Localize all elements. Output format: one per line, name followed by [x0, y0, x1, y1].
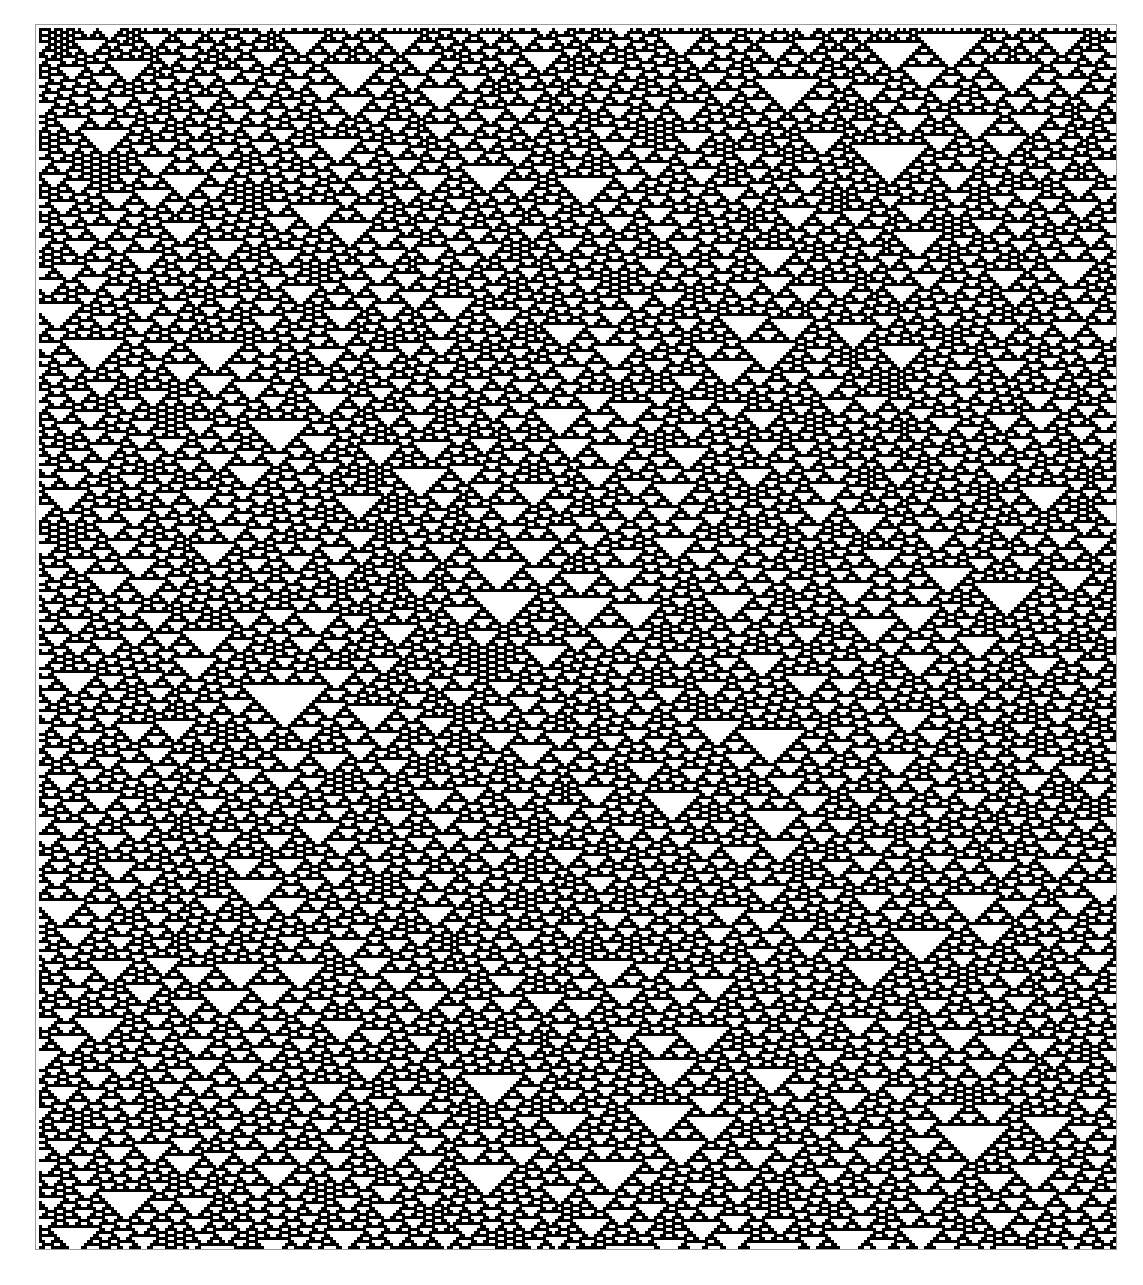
cellular-automaton-pattern: [39, 28, 1116, 1249]
figure-caption: [36, 25, 37, 26]
automaton-frame: [35, 24, 1117, 1250]
